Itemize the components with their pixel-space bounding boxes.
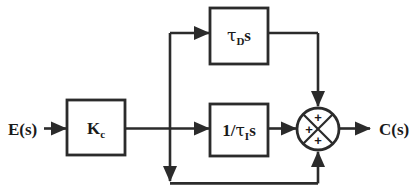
gain-label-main: K [87, 119, 101, 138]
derivative-label-tau: τ [227, 25, 236, 45]
integral-label-prefix: 1/ [222, 121, 236, 140]
sum-sign-bottom: + [314, 133, 322, 148]
output-label: C(s) [379, 120, 409, 139]
integral-label-tau: τ [235, 120, 244, 140]
derivative-label-suffix: s [244, 26, 251, 45]
derivative-label-sub: D [236, 35, 244, 47]
gain-label-sub: c [100, 128, 105, 140]
input-label: E(s) [8, 120, 37, 139]
sum-sign-top: + [314, 110, 322, 125]
sum-sign-left: + [305, 122, 313, 137]
integral-label: 1/τIs [222, 120, 256, 142]
diagram-canvas: + + + Kc τDs 1/τIs E(s) C(s) [0, 0, 413, 192]
integral-label-suffix: s [249, 121, 256, 140]
block-diagram: + + + Kc τDs 1/τIs E(s) C(s) [0, 0, 413, 192]
